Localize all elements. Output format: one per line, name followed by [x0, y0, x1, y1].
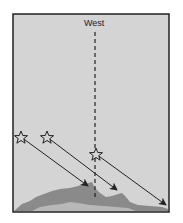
- west-label: West: [84, 18, 104, 28]
- diagram: [0, 0, 183, 223]
